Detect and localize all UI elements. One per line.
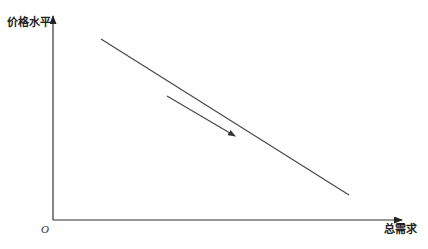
origin-label: O [41, 223, 49, 235]
diagram-canvas: 价格水平 总需求 O [0, 0, 428, 249]
y-axis-label: 价格水平 [7, 15, 51, 29]
x-axis-label: 总需求 [384, 222, 418, 236]
demand-curve [101, 39, 349, 195]
